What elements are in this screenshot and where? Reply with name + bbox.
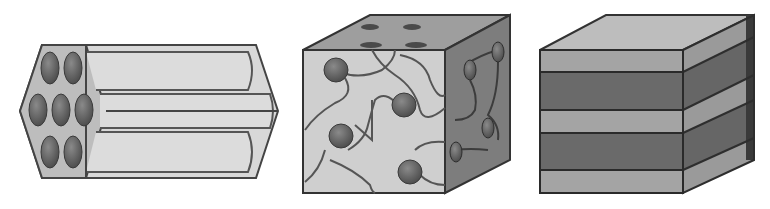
figure-stage xyxy=(0,0,770,209)
lamellar-cube-diagram xyxy=(540,15,754,193)
bicontinuous-cube-diagram xyxy=(303,15,510,193)
hexagonal-cylinders-diagram xyxy=(20,45,278,178)
